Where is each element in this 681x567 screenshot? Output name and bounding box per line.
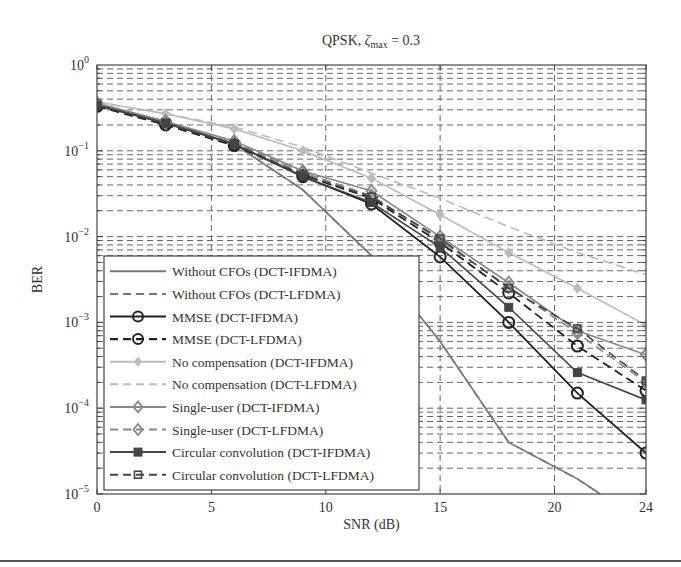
legend: Without CFOs (DCT-IFDMA)Without CFOs (DC… [104, 256, 419, 490]
y-tick-label: 10−5 [64, 483, 89, 502]
legend-label: No compensation (DCT-IFDMA) [172, 355, 353, 370]
x-tick-label: 5 [208, 500, 215, 515]
x-axis-label: SNR (dB) [343, 517, 400, 533]
legend-label: Without CFOs (DCT-LFDMA) [172, 287, 340, 302]
legend-item: MMSE (DCT-LFDMA) [110, 332, 302, 347]
y-tick-label: 100 [70, 54, 89, 73]
caption-divider [0, 560, 681, 562]
x-tick-label: 20 [548, 500, 562, 515]
x-tick-label: 0 [94, 500, 101, 515]
y-tick-label: 10−2 [64, 226, 89, 245]
y-tick-label: 10−3 [64, 311, 89, 330]
y-tick-label: 10−4 [64, 397, 89, 416]
legend-item: MMSE (DCT-IFDMA) [110, 310, 298, 325]
legend-label: Circular convolution (DCT-LFDMA) [172, 468, 374, 483]
title-text: QPSK, ζmax = 0.3 [322, 33, 420, 50]
y-tick-label: 10−1 [64, 140, 89, 159]
legend-label: Without CFOs (DCT-IFDMA) [172, 264, 337, 279]
x-tick-label: 15 [433, 500, 447, 515]
legend-label: MMSE (DCT-LFDMA) [172, 332, 302, 347]
legend-label: Single-user (DCT-LFDMA) [172, 423, 323, 438]
x-tick-label: 24 [639, 500, 653, 515]
legend-label: No compensation (DCT-LFDMA) [172, 377, 357, 392]
legend-label: MMSE (DCT-IFDMA) [172, 310, 298, 325]
ber-chart: QPSK, ζmax = 0.3 Without CFOs (DCT-IFDMA… [0, 0, 681, 567]
legend-label: Circular convolution (DCT-IFDMA) [172, 445, 370, 460]
y-axis-label: BER [30, 265, 45, 293]
x-tick-label: 10 [319, 500, 333, 515]
legend-label: Single-user (DCT-IFDMA) [172, 400, 320, 415]
chart-title: QPSK, ζmax = 0.3 [322, 33, 420, 50]
